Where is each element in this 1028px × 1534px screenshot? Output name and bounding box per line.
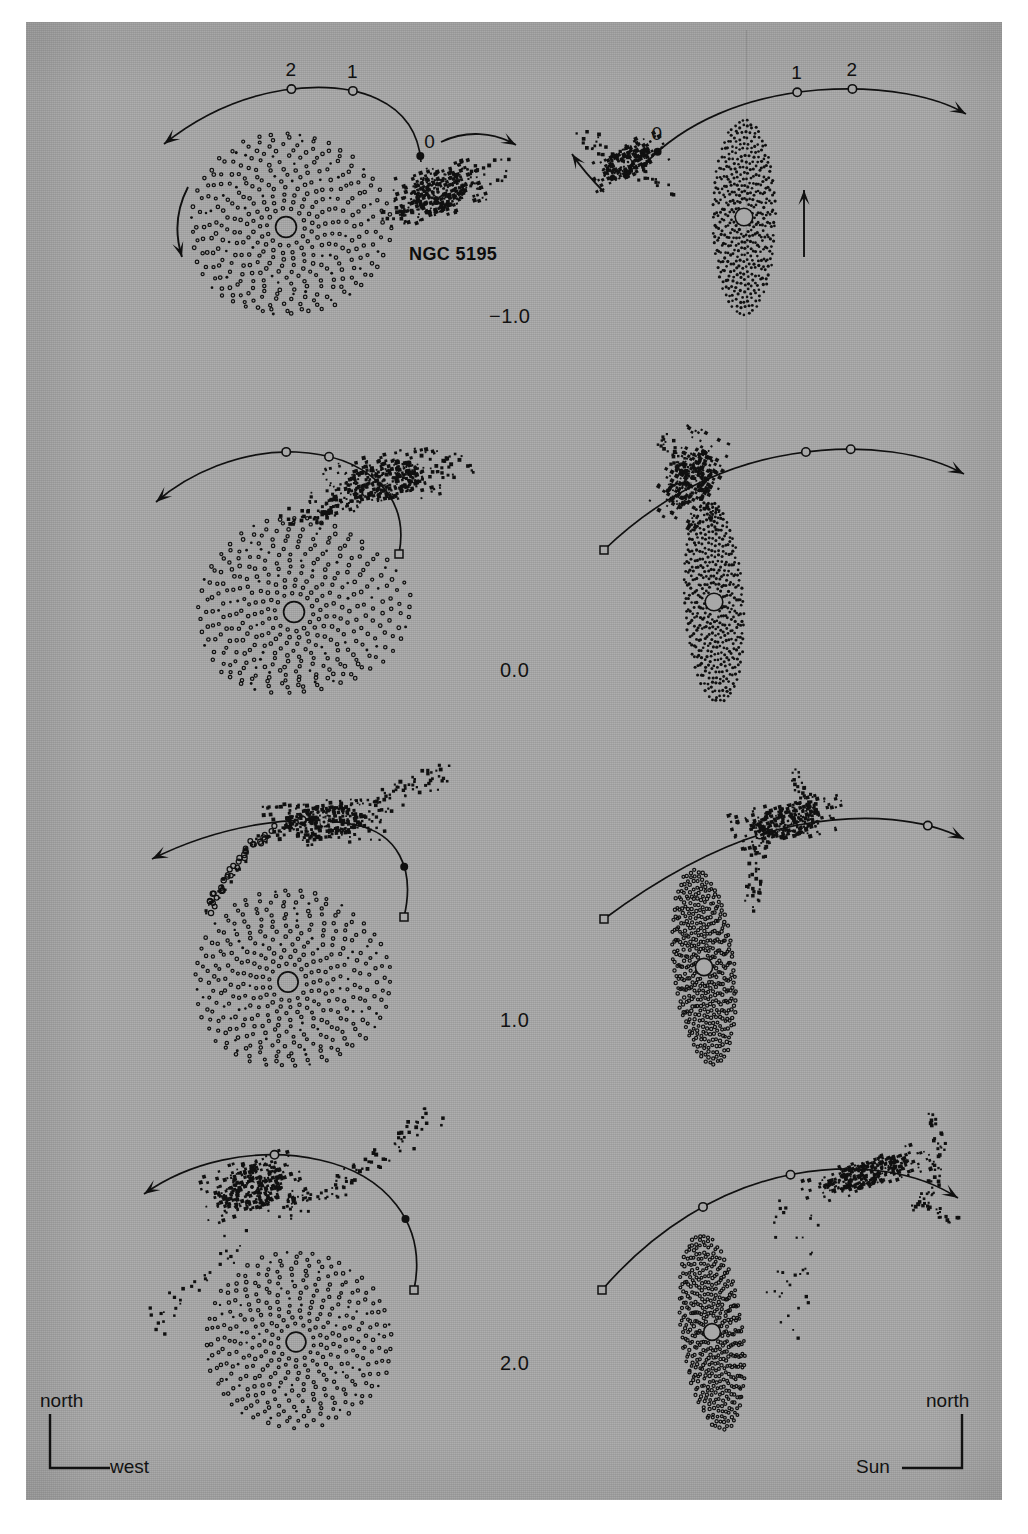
orbit-tick-label: 0 <box>424 131 435 152</box>
time-label-row2: 1.0 <box>500 1009 529 1032</box>
face-on-spiral-disk <box>205 1251 393 1430</box>
panel-row0-right: 012 <box>566 42 996 342</box>
edge-on-disk <box>712 119 777 316</box>
orbit-tick-marker-open <box>287 85 295 93</box>
orbit-tick-marker-filled <box>402 1215 410 1223</box>
orbit-tick-label: 1 <box>347 61 358 82</box>
companion-orbit-track <box>156 448 403 558</box>
disk-nucleus <box>284 602 305 623</box>
orbit-tick-label: 2 <box>846 59 857 80</box>
orbit-endpoint-square <box>410 1286 418 1294</box>
orbit-tick-marker-open <box>325 453 333 461</box>
edge-on-disk <box>683 501 746 702</box>
tidal-debris <box>350 764 451 823</box>
edge-on-disk <box>678 1235 746 1431</box>
compass-left-axes <box>50 1414 110 1468</box>
orbit-tick-marker-open <box>349 87 357 95</box>
clumpy-companion <box>194 1145 311 1230</box>
panel-row2-right <box>566 767 996 1087</box>
clumpy-companion <box>726 786 849 856</box>
orbit-tick-marker-open <box>802 448 810 456</box>
face-on-spiral-disk <box>190 132 393 315</box>
orbit-path <box>602 1169 958 1290</box>
disk-nucleus <box>286 1332 306 1352</box>
tidal-arm <box>207 823 277 915</box>
time-label-row3: 2.0 <box>500 1352 529 1375</box>
orbit-path <box>152 820 407 917</box>
disk-nucleus <box>278 972 298 992</box>
orbit-tick-marker-open <box>786 1171 794 1179</box>
clumpy-companion <box>261 795 387 850</box>
compass-right <box>896 1412 986 1482</box>
disk-nucleus <box>704 1324 721 1341</box>
orbit-tick-marker-filled <box>400 863 408 871</box>
companion-orbit-track: 012 <box>644 59 966 165</box>
orbit-endpoint-square <box>400 913 408 921</box>
disk-nucleus <box>276 217 297 238</box>
time-label-row1: 0.0 <box>500 659 529 682</box>
panel-row3-left <box>116 1102 546 1442</box>
tidal-debris <box>914 1202 961 1223</box>
panel-row1-left <box>116 422 546 722</box>
companion-motion-arrow <box>441 133 516 145</box>
compass-left-north-label: north <box>40 1390 83 1412</box>
panel-canvas: 012 <box>566 42 996 342</box>
face-on-spiral-disk <box>194 889 391 1067</box>
edge-on-disk <box>671 868 738 1066</box>
panel-canvas: 012 <box>116 42 546 342</box>
panel-canvas <box>116 422 546 722</box>
companion-orbit-track: 012 <box>164 59 435 162</box>
orbit-tick-marker-open <box>793 88 801 96</box>
panel-canvas <box>116 767 546 1087</box>
clumpy-companion <box>582 126 673 198</box>
tidal-debris <box>744 832 769 913</box>
orbit-tick-marker-open <box>699 1203 707 1211</box>
companion-orbit-track <box>600 445 964 554</box>
disk-spin-arrow <box>798 190 809 257</box>
orbit-endpoint-square <box>395 550 403 558</box>
companion-motion-arrow <box>572 154 604 192</box>
orbit-path <box>644 89 966 165</box>
disk-nucleus <box>705 593 723 611</box>
orbit-path <box>604 449 964 550</box>
panel-canvas <box>566 767 996 1087</box>
orbit-tick-marker-filled <box>416 152 424 160</box>
companion-orbit-track <box>598 1169 958 1294</box>
orbit-arrowhead <box>941 1184 958 1198</box>
compass-right-north-label: north <box>926 1390 969 1412</box>
disk-nucleus <box>695 958 712 975</box>
tidal-debris <box>766 1199 820 1339</box>
orbit-tick-marker-open <box>924 821 932 829</box>
face-on-spiral-disk <box>197 517 412 695</box>
panel-canvas <box>566 422 996 722</box>
orbit-tick-marker-open <box>270 1151 278 1159</box>
companion-orbit-track <box>144 1151 418 1294</box>
clumpy-companion <box>797 1137 934 1210</box>
orbit-endpoint-square <box>600 915 608 923</box>
panel-row1-right <box>566 422 996 722</box>
compass-right-sun-label: Sun <box>856 1456 890 1478</box>
tidal-debris <box>334 1107 445 1186</box>
compass-right-axes <box>902 1414 962 1468</box>
orbit-endpoint-square <box>600 546 608 554</box>
panel-row0-left: 012 <box>116 42 546 342</box>
companion-name-label: NGC 5195 <box>409 244 497 265</box>
orbit-tick-label: 2 <box>285 59 296 80</box>
time-label-row0: −1.0 <box>489 305 530 328</box>
compass-left <box>36 1412 126 1482</box>
tidal-debris <box>278 1185 347 1219</box>
disk-spin-arrow <box>172 187 188 257</box>
orbit-tick-marker-open <box>282 448 290 456</box>
panel-row2-left <box>116 767 546 1087</box>
orbit-tick-marker-open <box>848 85 856 93</box>
panel-canvas <box>116 1102 546 1442</box>
orbit-arrowhead <box>144 1180 161 1194</box>
tidal-debris <box>149 1229 248 1336</box>
orbit-endpoint-square <box>598 1286 606 1294</box>
orbit-tick-marker-open <box>847 445 855 453</box>
disk-nucleus <box>735 208 753 226</box>
orbit-tick-label: 1 <box>791 62 802 83</box>
figure-sheet: 012 012 NGC 5195 −1.0 0.0 1.0 2.0 north … <box>26 22 1002 1500</box>
